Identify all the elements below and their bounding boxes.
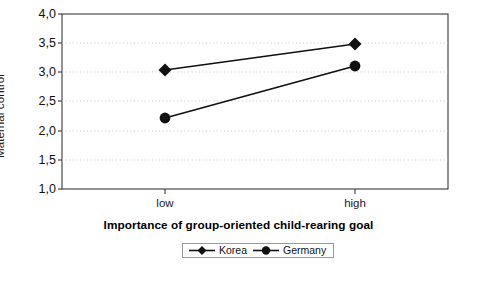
chart-figure: Maternal control 4,0 3,5 3,0 2,5 2,0 1,5… bbox=[0, 0, 477, 282]
data-point-germany-low bbox=[160, 113, 171, 124]
legend-label-korea: Korea bbox=[217, 245, 247, 256]
x-tick-label-high: high bbox=[315, 197, 395, 209]
x-axis-title: Importance of group-oriented child-reari… bbox=[0, 218, 477, 232]
legend-item-korea: Korea bbox=[189, 245, 247, 256]
x-tick-marks bbox=[165, 189, 355, 194]
y-tick-marks bbox=[58, 14, 62, 189]
legend-item-germany: Germany bbox=[253, 245, 326, 256]
plot-area bbox=[0, 0, 477, 282]
plot-frame bbox=[62, 14, 448, 189]
legend-marker-diamond-icon bbox=[189, 245, 215, 256]
data-point-germany-high bbox=[350, 61, 361, 72]
legend-label-germany: Germany bbox=[281, 245, 326, 256]
chart-legend: Korea Germany bbox=[182, 243, 334, 258]
x-tick-label-low: low bbox=[125, 197, 205, 209]
legend-marker-circle-icon bbox=[253, 245, 279, 256]
